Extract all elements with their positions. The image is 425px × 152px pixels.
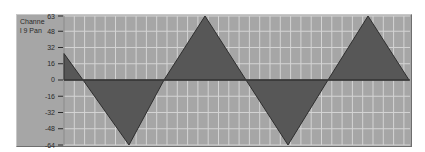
- svg-text:16: 16: [47, 60, 55, 67]
- pan-envelope-chart[interactable]: 634832160-16-32-48-64: [0, 0, 425, 152]
- svg-text:-32: -32: [45, 109, 55, 116]
- svg-text:-64: -64: [45, 142, 55, 149]
- svg-text:-48: -48: [45, 125, 55, 132]
- svg-text:63: 63: [47, 13, 55, 20]
- svg-text:0: 0: [51, 76, 55, 83]
- y-axis: 634832160-16-32-48-64: [45, 13, 64, 149]
- svg-text:48: 48: [47, 28, 55, 35]
- svg-text:-16: -16: [45, 93, 55, 100]
- svg-text:32: 32: [47, 44, 55, 51]
